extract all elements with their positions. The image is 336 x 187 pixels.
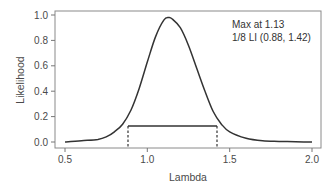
y-tick-labels: 0.0 0.2 0.4 0.6 0.8 1.0 (34, 10, 48, 148)
x-tick-1: 1.0 (140, 154, 154, 165)
y-tick-2: 0.4 (34, 86, 48, 97)
y-tick-4: 0.8 (34, 35, 48, 46)
y-tick-3: 0.6 (34, 60, 48, 71)
y-axis-title: Likelihood (14, 56, 26, 103)
x-tick-0: 0.5 (58, 154, 72, 165)
x-tick-3: 2.0 (305, 154, 319, 165)
annotation-interval: 1/8 LI (0.88, 1.42) (232, 32, 311, 43)
annotation-max: Max at 1.13 (232, 19, 285, 30)
x-axis-title: Lambda (169, 171, 207, 183)
x-axis (65, 148, 312, 152)
y-tick-1: 0.2 (34, 111, 48, 122)
y-axis (51, 15, 55, 142)
y-tick-5: 1.0 (34, 10, 48, 21)
y-tick-0: 0.0 (34, 137, 48, 148)
likelihood-chart: 0.0 0.2 0.4 0.6 0.8 1.0 0.5 1.0 1.5 2.0 … (0, 0, 336, 187)
x-tick-labels: 0.5 1.0 1.5 2.0 (58, 154, 319, 165)
x-tick-2: 1.5 (223, 154, 237, 165)
